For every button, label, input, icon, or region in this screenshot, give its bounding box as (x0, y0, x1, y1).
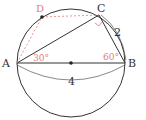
label-a: A (1, 57, 11, 70)
right-angle-mark (95, 22, 102, 26)
point-d (40, 15, 44, 19)
angle-b: 60° (103, 52, 119, 62)
angle-a: 30° (33, 53, 49, 63)
length-bc: 2 (114, 26, 121, 39)
dashed-dc (42, 15, 99, 17)
geometry-diagram: A B C D 30° 60° 2 4 (0, 0, 146, 120)
length-ab: 4 (68, 75, 75, 88)
center-point (69, 61, 73, 65)
label-d: D (36, 3, 44, 14)
segment-ac (17, 15, 99, 63)
label-c: C (97, 2, 105, 15)
label-b: B (128, 57, 136, 70)
